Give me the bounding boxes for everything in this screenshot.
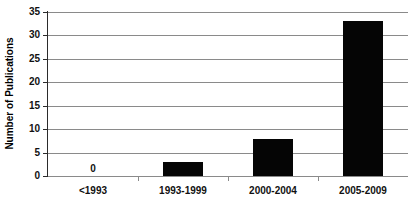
y-axis-title: Number of Publications (0, 0, 18, 186)
x-axis-tick (228, 177, 229, 181)
gridline (48, 12, 408, 13)
y-axis-tick (43, 153, 48, 154)
x-axis-tick (318, 177, 319, 181)
y-axis-tick-label: 30 (20, 30, 40, 40)
x-axis-category-label: 1993-1999 (138, 185, 228, 196)
y-axis-tick (43, 106, 48, 107)
bar-value-label: 0 (73, 164, 113, 174)
x-axis-category-label: 2000-2004 (228, 185, 318, 196)
y-axis-tick (43, 59, 48, 60)
y-axis-tick-label: 15 (20, 101, 40, 111)
x-axis-category-label: <1993 (48, 185, 138, 196)
bar (253, 139, 293, 176)
y-axis-tick-label: 25 (20, 54, 40, 64)
x-axis-tick (138, 177, 139, 181)
y-axis-tick (43, 82, 48, 83)
y-axis-tick (43, 176, 48, 177)
bar (343, 21, 383, 176)
y-axis-tick (43, 129, 48, 130)
y-axis-title-text: Number of Publications (4, 37, 15, 149)
y-axis-tick-label: 10 (20, 124, 40, 134)
bar (163, 162, 203, 176)
y-axis-tick (43, 35, 48, 36)
y-axis-tick-label: 35 (20, 7, 40, 17)
bar-chart: Number of Publications 35302520151050 0 … (0, 0, 414, 204)
y-axis-tick-label: 0 (20, 171, 40, 181)
x-axis-category-label: 2005-2009 (318, 185, 408, 196)
y-axis-tick-label: 20 (20, 77, 40, 87)
y-axis-tick (43, 12, 48, 13)
y-axis-tick-label: 5 (20, 148, 40, 158)
